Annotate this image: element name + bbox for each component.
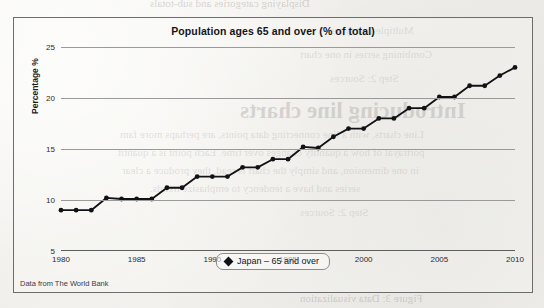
data-point: [89, 208, 94, 213]
data-point: [482, 83, 487, 88]
series-line: [61, 67, 515, 210]
x-axis-tick-label: 2005: [430, 255, 448, 264]
data-point: [180, 185, 185, 190]
data-point: [346, 126, 351, 131]
data-point: [225, 174, 230, 179]
gridline-y: [61, 47, 515, 48]
y-axis-tick-label: 20: [46, 94, 55, 103]
data-point: [255, 165, 260, 170]
bleed-through-line: Figure 3: Data visualization: [300, 292, 423, 304]
legend-label: Japan – 65 and over: [237, 256, 319, 266]
data-point: [270, 157, 275, 162]
chart-panel: Population ages 65 and over (% of total)…: [13, 17, 533, 293]
x-axis-tick-label: 1980: [52, 255, 70, 264]
chart-legend[interactable]: Japan – 65 and over: [216, 253, 330, 270]
data-point: [286, 157, 291, 162]
data-point: [165, 185, 170, 190]
x-axis-line: [61, 250, 515, 251]
gridline-y: [61, 200, 515, 201]
data-point: [392, 116, 397, 121]
y-axis-title: Percentage %: [30, 58, 40, 114]
data-point: [513, 65, 518, 70]
x-axis-tick-label: 2000: [355, 255, 373, 264]
y-axis-tick-label: 10: [46, 196, 55, 205]
data-point: [467, 83, 472, 88]
data-point: [331, 134, 336, 139]
legend-diamond-icon: [224, 256, 234, 266]
data-point: [422, 106, 427, 111]
data-point: [376, 116, 381, 121]
gridline-y: [61, 98, 515, 99]
chart-title: Population ages 65 and over (% of total): [14, 25, 532, 37]
x-axis-tick-label: 1985: [128, 255, 146, 264]
bleed-through-line: Displaying categories and sub-totals: [150, 0, 310, 9]
data-point: [497, 73, 502, 78]
gridline-y: [61, 149, 515, 150]
data-point: [361, 126, 366, 131]
x-axis-tick-label: 2010: [506, 255, 524, 264]
data-point: [240, 165, 245, 170]
data-point: [59, 208, 64, 213]
data-point: [407, 106, 412, 111]
y-axis-tick-label: 25: [46, 43, 55, 52]
plot-area: 5101520251980198519901995200020052010: [61, 47, 515, 251]
data-point: [210, 174, 215, 179]
source-note: Data from The World Bank: [20, 279, 109, 288]
y-axis-tick-label: 15: [46, 145, 55, 154]
data-point: [74, 208, 79, 213]
data-point: [195, 174, 200, 179]
